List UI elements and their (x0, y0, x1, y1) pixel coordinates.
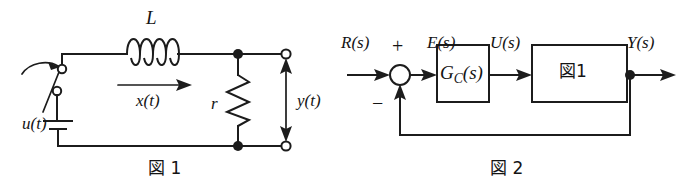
summing-junction-circle (390, 65, 410, 85)
controller-block-label: GC(s) (440, 63, 483, 86)
circuit-output-label: y(t) (297, 92, 321, 109)
switch-pole-lower (53, 87, 61, 95)
figure2-block-group (348, 45, 676, 135)
figure2-caption: 図 2 (490, 160, 523, 177)
control-label: U(s) (490, 34, 520, 51)
inductor-coil (127, 39, 179, 65)
current-label: x(t) (136, 92, 160, 109)
node-dot-bottom (233, 141, 243, 151)
plant-block-label: 図1 (559, 63, 587, 80)
node-dot-top (233, 49, 243, 59)
source-label: u(t) (22, 115, 47, 132)
diagram-canvas (0, 0, 691, 194)
figure1-caption: 図 1 (148, 160, 181, 177)
resistor-label: r (211, 95, 218, 112)
input-label: R(s) (341, 34, 369, 51)
resistor-zigzag (227, 75, 249, 126)
error-label: E(s) (427, 34, 455, 51)
controller-block-subscript: C (454, 71, 463, 86)
plus-sign-label: + (392, 36, 403, 56)
output-terminal-bottom (281, 141, 290, 150)
output-terminal-top (281, 49, 290, 58)
controller-block-suffix: (s) (463, 62, 483, 83)
controller-block-symbol: G (440, 62, 454, 83)
inductor-label: L (146, 8, 157, 27)
minus-sign-label: − (372, 93, 383, 113)
plant-output-label: Y(s) (627, 34, 654, 51)
figure-sheet: L r x(t) u(t) y(t) 図 1 R(s) + − E(s) U(s… (0, 0, 691, 194)
